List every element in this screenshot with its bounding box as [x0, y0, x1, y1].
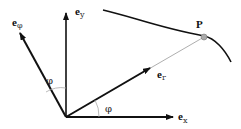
- ey-label: ey: [75, 5, 85, 19]
- trajectory-curve: [103, 10, 231, 62]
- angle-arc-bottom: [95, 100, 99, 117]
- ephi-label: eφ: [12, 16, 23, 30]
- angle-label-bottom: φ: [105, 103, 112, 114]
- point-label: P: [196, 18, 203, 30]
- er-label: er: [157, 68, 166, 82]
- polar-coordinates-diagram: P ey eφ er ex φ φ: [0, 0, 241, 129]
- ephi-vector: [20, 33, 66, 117]
- diagram-svg: P ey eφ er ex φ φ: [0, 0, 241, 129]
- angle-arc-top: [46, 88, 66, 92]
- point-p: [201, 34, 207, 40]
- angle-label-top: φ: [46, 75, 53, 86]
- ex-label: ex: [178, 110, 188, 125]
